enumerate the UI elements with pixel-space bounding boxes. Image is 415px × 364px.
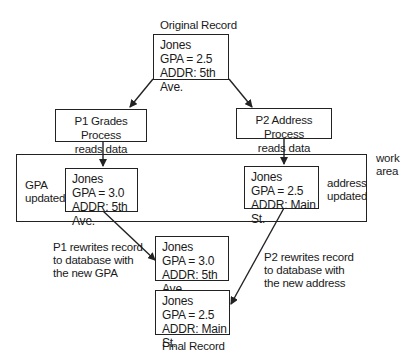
record-line: GPA = 2.5 [160,52,228,66]
work-area-label-line1: work [376,152,399,165]
gpa-updated-note-line2: updated [25,192,65,205]
original-record-caption: Original Record [160,19,237,32]
p2-rewrite-note-line1: P2 rewrites record [264,251,354,264]
record-line: ADDR: 5th Ave. [160,66,228,94]
record-line: Jones [162,294,229,308]
address-updated-note-line1: address [327,177,367,190]
final-record-box: Jones GPA = 2.5 ADDR: Main St. [155,290,230,335]
p1-rewrite-note-line3: the new GPA [53,267,118,280]
record-line: Jones [251,170,318,184]
p1-process-box: P1 Grades Process reads data [55,109,147,142]
record-line: Jones [72,172,137,186]
p1-rewrite-note-line1: P1 rewrites record [53,241,143,254]
p2-work-record-box: Jones GPA = 2.5 ADDR: Main St. [244,166,319,209]
p1-rewrite-record-box: Jones GPA = 3.0 ADDR: 5th Ave. [155,236,229,281]
p2-rewrite-note-line3: the new address [264,277,345,290]
p2-process-subtitle: reads data [237,141,331,155]
p2-process-title: P2 Address Process [237,113,331,141]
record-line: ADDR: 5th Ave. [72,200,137,228]
record-line: Jones [160,38,228,52]
record-line: GPA = 3.0 [72,186,137,200]
p1-work-record-box: Jones GPA = 3.0 ADDR: 5th Ave. [65,168,138,212]
address-updated-note-line2: updated [327,190,367,203]
work-area-label-line2: area [376,165,398,178]
record-line: ADDR: Main St. [251,198,318,226]
p1-process-title: P1 Grades Process [56,114,146,142]
final-record-caption: Final Record [162,340,225,353]
gpa-updated-note-line1: GPA [25,179,48,192]
original-record-box: Jones GPA = 2.5 ADDR: 5th Ave. [153,34,229,80]
record-line: GPA = 3.0 [162,254,228,268]
p2-process-box: P2 Address Process reads data [236,108,332,139]
p2-rewrite-note-line2: to database with [264,264,345,277]
record-line: GPA = 2.5 [251,184,318,198]
record-line: Jones [162,240,228,254]
p1-rewrite-note-line2: to database with [53,254,134,267]
record-line: GPA = 2.5 [162,308,229,322]
